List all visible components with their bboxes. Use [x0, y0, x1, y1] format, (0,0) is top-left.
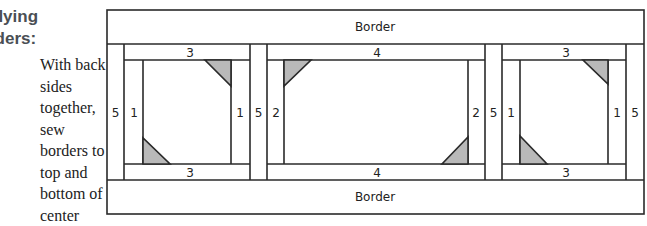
block-center-top-label: 4: [373, 46, 381, 60]
block-right-top-label: 3: [562, 46, 570, 60]
block-center-right-label: 2: [472, 106, 480, 120]
strip-5-mid-left: 5: [255, 106, 263, 120]
block-left-top-label: 3: [186, 46, 194, 60]
block-right-right-label: 1: [613, 106, 621, 120]
top-border-label: Border: [355, 20, 395, 34]
strip-5-left: 5: [112, 106, 120, 120]
strip-5-mid-right: 5: [490, 106, 498, 120]
quilt-border-diagram: Border Border 5 5 5 5 3 3 1 1 4 4 2 2 3 …: [0, 0, 647, 226]
block-center-left-label: 2: [272, 106, 280, 120]
block-right-left-label: 1: [507, 106, 515, 120]
block-left-right-label: 1: [236, 106, 244, 120]
block-right-bottom-label: 3: [562, 166, 570, 180]
outer-frame: [107, 10, 644, 214]
block-center-bottom-label: 4: [373, 166, 381, 180]
block-left-left-label: 1: [130, 106, 138, 120]
block-left-bottom-label: 3: [186, 166, 194, 180]
strip-5-right: 5: [631, 106, 639, 120]
bottom-border-label: Border: [355, 190, 395, 204]
